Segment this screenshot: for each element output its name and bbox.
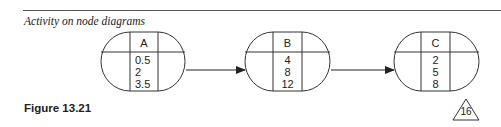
node-a-label: A — [140, 37, 148, 49]
node-a: A 0.5 2 3.5 — [101, 32, 185, 91]
node-a-value-2: 2 — [135, 66, 141, 78]
page-number: 16 — [452, 106, 480, 117]
node-c-label: C — [432, 37, 440, 49]
node-b-label: B — [284, 37, 291, 49]
node-b-value-3: 12 — [281, 78, 293, 90]
node-c-value-1: 2 — [432, 54, 438, 66]
node-b-value-2: 8 — [284, 66, 290, 78]
node-c-value-2: 5 — [432, 66, 438, 78]
node-c-value-3: 8 — [432, 78, 438, 90]
node-a-value-1: 0.5 — [135, 54, 150, 66]
node-b: B 4 8 12 — [245, 32, 330, 91]
node-c: C 2 5 8 — [394, 32, 479, 91]
figure-caption: Figure 13.21 — [24, 102, 91, 114]
node-b-value-1: 4 — [284, 54, 290, 66]
node-a-value-3: 3.5 — [135, 78, 150, 90]
